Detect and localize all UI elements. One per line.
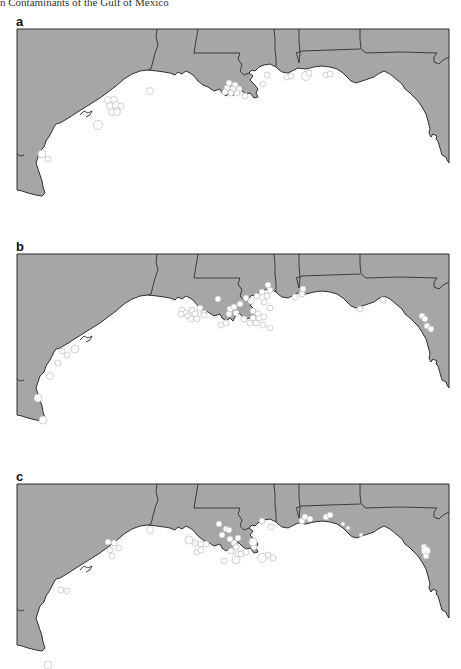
sampling-site-marker <box>218 322 224 328</box>
sampling-site-marker <box>178 311 184 317</box>
sampling-site-marker <box>428 326 434 332</box>
sampling-site-marker <box>107 547 113 553</box>
land-region <box>17 484 449 651</box>
sampling-site-marker <box>192 540 198 546</box>
sampling-site-marker <box>264 293 270 299</box>
sampling-site-marker <box>147 88 154 95</box>
sampling-site-marker <box>194 316 200 322</box>
map-panel-a <box>0 29 461 209</box>
panel-label-b: b <box>16 239 24 254</box>
state-border <box>80 566 92 572</box>
state-border <box>80 336 92 342</box>
sampling-site-marker <box>241 316 247 322</box>
sampling-site-marker <box>188 316 194 322</box>
sampling-site-marker <box>219 532 225 538</box>
sampling-site-marker <box>235 535 241 541</box>
sampling-site-marker <box>261 299 267 305</box>
sampling-site-marker <box>118 103 124 109</box>
sampling-site-marker <box>59 348 65 354</box>
sampling-site-marker <box>422 316 428 322</box>
sampling-site-marker <box>300 286 306 292</box>
sampling-site-marker <box>265 282 271 288</box>
sampling-site-marker <box>237 301 243 307</box>
sampling-site-marker <box>254 293 260 299</box>
sampling-site-marker <box>423 553 429 559</box>
sampling-site-marker <box>64 352 70 358</box>
panel-label-a: a <box>16 14 23 29</box>
sampling-site-marker <box>222 89 228 95</box>
sampling-site-marker <box>268 524 274 530</box>
sampling-site-marker <box>267 325 273 331</box>
sampling-site-marker <box>228 90 234 96</box>
sampling-site-marker <box>380 297 386 303</box>
sampling-site-marker <box>45 156 51 162</box>
sampling-site-marker <box>248 298 254 304</box>
map-panel-b <box>0 254 461 434</box>
sampling-site-marker <box>198 547 204 553</box>
land-region <box>17 254 449 421</box>
sampling-site-marker <box>216 521 222 527</box>
map-panel-c <box>0 484 461 669</box>
sampling-site-marker <box>215 296 221 302</box>
sampling-site-marker <box>292 294 298 300</box>
sampling-site-marker <box>327 512 333 518</box>
sampling-site-marker <box>242 93 248 99</box>
sampling-site-marker <box>109 553 115 559</box>
sampling-site-marker <box>306 70 312 76</box>
sampling-site-marker <box>327 71 333 77</box>
sampling-site-marker <box>260 322 266 328</box>
sampling-site-marker <box>44 661 52 669</box>
sampling-site-marker <box>288 73 294 79</box>
land-region <box>17 29 449 196</box>
sampling-site-marker <box>105 539 111 545</box>
state-border <box>80 111 92 117</box>
sampling-site-marker <box>243 549 249 555</box>
panel-label-c: c <box>16 469 23 484</box>
sampling-site-marker <box>94 121 103 130</box>
sampling-site-marker <box>270 555 276 561</box>
sampling-site-marker <box>359 533 363 537</box>
sampling-site-marker <box>201 312 207 318</box>
sampling-site-marker <box>233 310 239 316</box>
sampling-site-marker <box>307 516 313 522</box>
sampling-site-marker <box>232 556 240 564</box>
sampling-site-marker <box>264 72 270 78</box>
sampling-site-marker <box>249 538 257 546</box>
sampling-site-marker <box>58 587 64 593</box>
sampling-site-marker <box>346 526 350 530</box>
sampling-site-marker <box>38 150 46 158</box>
sampling-site-marker <box>228 548 234 554</box>
sampling-site-marker <box>203 541 209 547</box>
sampling-site-marker <box>259 518 265 524</box>
sampling-site-marker <box>147 527 154 534</box>
sampling-site-marker <box>226 311 232 317</box>
sampling-site-marker <box>226 527 232 533</box>
sampling-site-marker <box>233 544 239 550</box>
sampling-site-marker <box>259 289 265 295</box>
sampling-site-marker <box>253 320 259 326</box>
sampling-site-marker <box>71 345 79 353</box>
sampling-site-marker <box>260 81 266 87</box>
sampling-site-marker <box>55 360 61 366</box>
sampling-site-marker <box>116 545 122 551</box>
sampling-site-marker <box>197 305 203 311</box>
sampling-site-marker <box>47 373 54 380</box>
sampling-site-marker <box>267 305 273 311</box>
page-header-text: n Contaminants of the Gulf of Mexico <box>0 0 169 8</box>
sampling-site-marker <box>39 416 47 424</box>
sampling-site-marker <box>341 522 345 526</box>
sampling-site-marker <box>64 588 70 594</box>
sampling-site-marker <box>357 306 363 312</box>
sampling-site-marker <box>221 558 227 564</box>
sampling-site-marker <box>114 109 121 116</box>
sampling-site-marker <box>261 314 267 320</box>
sampling-site-marker <box>234 90 240 96</box>
sampling-site-marker <box>247 320 253 326</box>
sampling-site-marker <box>34 394 42 402</box>
sampling-site-marker <box>111 540 117 546</box>
sampling-site-marker <box>231 304 237 310</box>
